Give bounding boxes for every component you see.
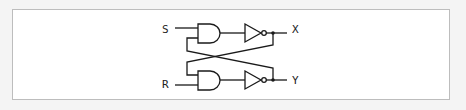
output-label-x: X (292, 23, 299, 36)
not-gate-bottom (245, 71, 266, 89)
input-label-r: R (162, 78, 169, 91)
and-gate-bottom (198, 71, 220, 90)
circuit-diagram: S R X Y (0, 0, 466, 110)
output-label-y: Y (292, 74, 299, 87)
not-gate-top (245, 24, 266, 42)
input-label-s: S (162, 23, 169, 36)
and-gate-top (198, 24, 220, 43)
